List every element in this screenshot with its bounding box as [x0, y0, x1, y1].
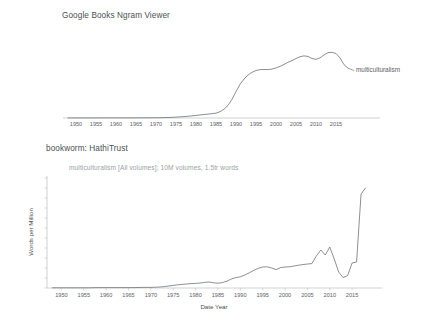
- bookworm-series-multiculturalism: [52, 188, 365, 288]
- bookworm-plot-area: [0, 0, 429, 322]
